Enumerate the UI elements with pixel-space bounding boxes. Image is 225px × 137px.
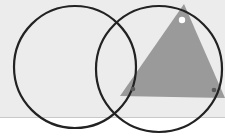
triangle <box>120 4 225 98</box>
left-circle <box>14 6 136 128</box>
top-vertex-dot <box>179 17 185 23</box>
left-vertex-dot <box>131 87 136 92</box>
right-vertex-dot <box>212 88 217 93</box>
venn-triangle-diagram <box>0 0 225 137</box>
